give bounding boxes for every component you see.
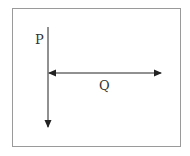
frame-border [13,9,181,147]
label-q: Q [99,78,110,93]
force-diagram: P Q [0,0,190,156]
label-p: P [35,32,44,47]
